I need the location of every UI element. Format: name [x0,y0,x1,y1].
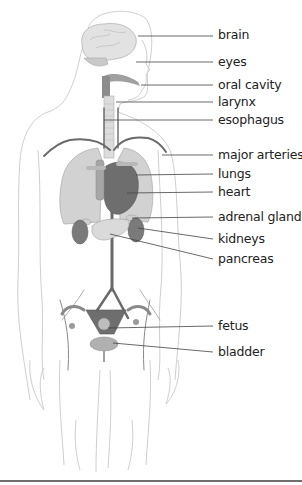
label-major-arteries: major arteries [218,148,302,162]
label-adrenal-glands: adrenal glands [218,210,302,224]
label-pancreas: pancreas [218,252,274,266]
label-fetus: fetus [218,319,248,333]
label-brain: brain [218,28,249,42]
bottom-rule [0,480,302,482]
label-oral-cavity: oral cavity [218,78,281,92]
body-outline [18,11,182,472]
oral-cavity [102,74,140,98]
label-eyes: eyes [218,55,247,69]
label-bladder: bladder [218,345,264,359]
brain [82,24,137,66]
label-lungs: lungs [218,167,251,181]
label-larynx: larynx [218,95,256,109]
label-kidneys: kidneys [218,232,265,246]
bladder [90,337,118,362]
pancreas [92,219,129,240]
label-esophagus: esophagus [218,113,284,127]
label-heart: heart [218,185,250,199]
